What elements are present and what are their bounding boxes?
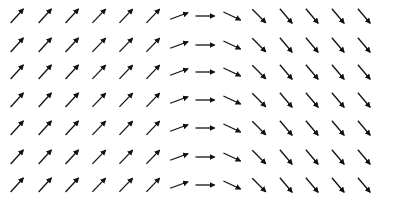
- arrow-icon: [252, 9, 265, 22]
- arrow-icon: [66, 65, 79, 79]
- arrow-icon: [306, 9, 318, 24]
- arrow-icon: [119, 65, 132, 79]
- arrow-icon: [146, 93, 159, 107]
- arrow-icon: [170, 42, 188, 49]
- arrow-icon: [39, 93, 52, 107]
- arrow-icon: [280, 38, 292, 53]
- arrow-icon: [306, 150, 318, 165]
- arrow-icon: [146, 121, 159, 135]
- arrow-icon: [119, 178, 132, 192]
- arrow-icon: [252, 38, 265, 51]
- quiver-plot: [0, 0, 403, 205]
- arrow-icon: [223, 124, 240, 132]
- arrow-icon: [92, 38, 105, 52]
- arrow-icon: [66, 178, 79, 192]
- arrow-icon: [280, 150, 292, 165]
- arrow-icon: [11, 178, 24, 192]
- arrow-icon: [252, 93, 265, 106]
- arrow-icon: [223, 96, 240, 104]
- arrow-icon: [306, 178, 318, 193]
- arrow-icon: [146, 38, 159, 52]
- arrow-icon: [119, 121, 132, 135]
- arrow-icon: [146, 178, 159, 192]
- arrow-icon: [66, 121, 79, 135]
- arrow-field: [11, 9, 370, 193]
- arrow-icon: [119, 9, 132, 23]
- arrow-icon: [306, 38, 318, 53]
- arrow-icon: [223, 68, 240, 76]
- arrow-icon: [170, 69, 188, 76]
- arrow-icon: [92, 9, 105, 23]
- arrow-icon: [332, 9, 344, 24]
- arrow-icon: [358, 93, 370, 108]
- arrow-icon: [358, 121, 370, 136]
- arrow-icon: [332, 93, 344, 108]
- arrow-icon: [39, 38, 52, 52]
- arrow-icon: [11, 9, 24, 23]
- arrow-icon: [358, 38, 370, 53]
- arrow-icon: [66, 9, 79, 23]
- arrow-icon: [332, 150, 344, 165]
- arrow-icon: [280, 121, 292, 136]
- arrow-icon: [92, 65, 105, 79]
- arrow-icon: [358, 178, 370, 193]
- arrow-icon: [358, 9, 370, 24]
- arrow-icon: [170, 182, 188, 189]
- arrow-icon: [170, 125, 188, 132]
- arrow-icon: [280, 9, 292, 24]
- arrow-icon: [39, 178, 52, 192]
- arrow-icon: [39, 121, 52, 135]
- arrow-icon: [332, 121, 344, 136]
- arrow-icon: [332, 65, 344, 80]
- arrow-icon: [280, 93, 292, 108]
- arrow-icon: [306, 65, 318, 80]
- arrow-icon: [11, 150, 24, 164]
- arrow-icon: [66, 38, 79, 52]
- arrow-icon: [223, 153, 240, 161]
- arrow-icon: [39, 150, 52, 164]
- arrow-icon: [66, 150, 79, 164]
- arrow-icon: [146, 150, 159, 164]
- arrow-icon: [11, 121, 24, 135]
- arrow-icon: [146, 9, 159, 23]
- arrow-icon: [252, 121, 265, 134]
- arrow-icon: [119, 150, 132, 164]
- arrow-icon: [119, 38, 132, 52]
- arrow-icon: [119, 93, 132, 107]
- arrow-icon: [11, 93, 24, 107]
- arrow-icon: [358, 65, 370, 80]
- arrow-icon: [358, 150, 370, 165]
- arrow-icon: [252, 65, 265, 78]
- arrow-icon: [280, 178, 292, 193]
- arrow-icon: [223, 12, 240, 20]
- arrow-icon: [223, 41, 240, 49]
- arrow-icon: [39, 65, 52, 79]
- arrow-icon: [306, 93, 318, 108]
- arrow-icon: [11, 38, 24, 52]
- arrow-icon: [66, 93, 79, 107]
- arrow-icon: [92, 178, 105, 192]
- arrow-icon: [170, 97, 188, 104]
- arrow-icon: [39, 9, 52, 23]
- arrow-icon: [332, 178, 344, 193]
- arrow-icon: [170, 154, 188, 161]
- arrow-icon: [146, 65, 159, 79]
- arrow-icon: [252, 178, 265, 191]
- arrow-icon: [306, 121, 318, 136]
- arrow-icon: [332, 38, 344, 53]
- arrow-icon: [92, 150, 105, 164]
- arrow-icon: [280, 65, 292, 80]
- arrow-icon: [11, 65, 24, 79]
- arrow-icon: [92, 121, 105, 135]
- arrow-icon: [92, 93, 105, 107]
- arrow-icon: [252, 150, 265, 163]
- arrow-icon: [223, 181, 240, 189]
- arrow-icon: [170, 13, 188, 20]
